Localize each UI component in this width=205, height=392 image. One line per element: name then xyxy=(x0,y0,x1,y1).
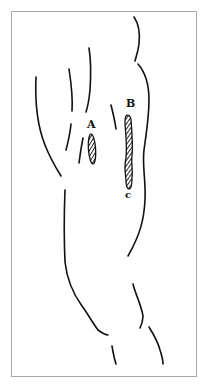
contour-right-elbow-2 xyxy=(149,327,163,364)
muscle-line-2 xyxy=(86,48,91,112)
contour-right-elbow-1 xyxy=(133,284,143,328)
muscle-line-1 xyxy=(69,69,72,111)
contour-left-bottom xyxy=(112,346,116,364)
contour-right-top xyxy=(134,17,139,61)
contour-left-outer xyxy=(36,77,61,176)
mark-a-ellipse xyxy=(87,134,96,164)
label-a: A xyxy=(87,119,96,130)
anatomical-sketch xyxy=(0,0,205,392)
label-b: B xyxy=(126,98,135,109)
muscle-line-3 xyxy=(66,124,71,150)
label-c: c xyxy=(125,190,131,200)
muscle-line-5 xyxy=(111,105,116,129)
muscle-line-4 xyxy=(79,138,83,163)
contour-left-lower xyxy=(64,190,108,335)
mark-bc-band xyxy=(125,115,133,189)
